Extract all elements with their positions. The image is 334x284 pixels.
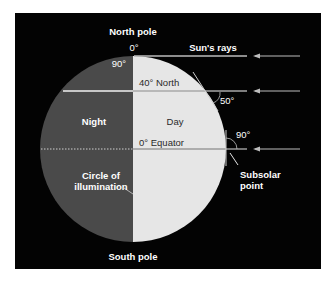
ninety-degree-right-label: 90° bbox=[236, 129, 251, 140]
fifty-degree-label: 50° bbox=[220, 95, 235, 106]
day-label: Day bbox=[167, 116, 184, 127]
circle-of-illumination-label-2: illumination bbox=[74, 181, 128, 192]
forty-north-label: 40° North bbox=[139, 77, 179, 88]
north-pole-label: North pole bbox=[109, 26, 157, 37]
ninety-degree-top-label: 90° bbox=[112, 58, 127, 69]
zero-degree-label: 0° bbox=[129, 42, 138, 53]
subsolar-point-label-1: Subsolar bbox=[240, 169, 281, 180]
subsolar-point-label-2: point bbox=[240, 180, 264, 191]
south-pole-label: South pole bbox=[108, 251, 157, 262]
arrow-40n-icon bbox=[253, 89, 300, 94]
night-label: Night bbox=[82, 116, 107, 127]
sun-rays-label: Sun's rays bbox=[189, 42, 237, 53]
arrow-top-icon bbox=[253, 54, 300, 59]
equator-label: 0° Equator bbox=[139, 137, 184, 148]
arrow-equator-icon bbox=[253, 147, 300, 152]
circle-of-illumination-label-1: Circle of bbox=[82, 170, 121, 181]
subsolar-pointer bbox=[230, 153, 238, 165]
earth-illumination-diagram: North pole 0° Sun's rays 90° 40° North 5… bbox=[0, 0, 334, 284]
